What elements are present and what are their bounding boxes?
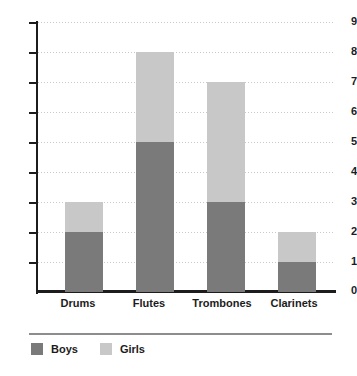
- bar-clarinets-girls-segment: [278, 232, 316, 262]
- y-tick-label-4: 4: [335, 166, 357, 177]
- legend-item-girls[interactable]: Girls: [100, 343, 145, 355]
- legend-divider: [29, 333, 332, 335]
- y-tick-label-3: 3: [335, 196, 357, 207]
- y-tick-label-5: 5: [335, 136, 357, 147]
- bar-flutes-girls-segment: [136, 52, 174, 142]
- stacked-bar-chart: 9 8 7 6 5 4 3 2 1 0 Drums Flutes Trombon…: [0, 0, 357, 376]
- x-label-clarinets: Clarinets: [256, 297, 332, 309]
- bar-trombones-boys-segment: [207, 202, 245, 292]
- bar-trombones[interactable]: [207, 82, 245, 292]
- legend: Boys Girls: [31, 343, 145, 355]
- plot-area: [38, 22, 335, 292]
- x-label-flutes: Flutes: [116, 297, 182, 309]
- girls-swatch-icon: [100, 343, 112, 355]
- boys-swatch-icon: [31, 343, 43, 355]
- y-tick-label-7: 7: [335, 76, 357, 87]
- bar-flutes-boys-segment: [136, 142, 174, 292]
- y-tick-1: [29, 262, 37, 264]
- y-tick-6: [29, 112, 37, 114]
- y-tick-3: [29, 202, 37, 204]
- legend-item-boys[interactable]: Boys: [31, 343, 78, 355]
- bar-drums-girls-segment: [65, 202, 103, 232]
- legend-label-boys: Boys: [51, 344, 78, 355]
- x-label-drums: Drums: [45, 297, 111, 309]
- y-tick-label-9: 9: [335, 16, 357, 27]
- x-label-trombones: Trombones: [182, 297, 262, 309]
- y-tick-2: [29, 232, 37, 234]
- y-tick-label-0: 0: [335, 285, 357, 296]
- bar-trombones-girls-segment: [207, 82, 245, 202]
- y-tick-5: [29, 142, 37, 144]
- y-tick-label-6: 6: [335, 106, 357, 117]
- y-tick-8: [29, 52, 37, 54]
- y-tick-label-2: 2: [335, 226, 357, 237]
- y-tick-4: [29, 172, 37, 174]
- y-tick-label-8: 8: [335, 46, 357, 57]
- bar-drums[interactable]: [65, 202, 103, 292]
- y-tick-9: [29, 22, 37, 24]
- bar-clarinets[interactable]: [278, 232, 316, 292]
- bar-drums-boys-segment: [65, 232, 103, 292]
- bar-flutes[interactable]: [136, 52, 174, 292]
- y-tick-label-1: 1: [335, 256, 357, 267]
- bar-clarinets-boys-segment: [278, 262, 316, 292]
- y-tick-7: [29, 82, 37, 84]
- legend-label-girls: Girls: [120, 344, 145, 355]
